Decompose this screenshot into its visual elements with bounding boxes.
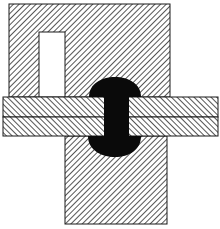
slot [39, 32, 65, 97]
rivet-diagram [0, 0, 220, 229]
rivet-shank [104, 96, 129, 137]
top-block [9, 4, 170, 97]
